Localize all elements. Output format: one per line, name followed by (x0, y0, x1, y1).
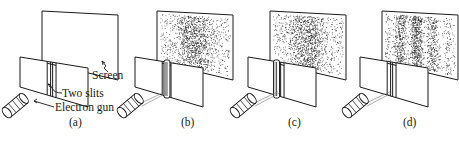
barrier-left-plate (135, 57, 162, 95)
panel-c (228, 11, 346, 119)
electron-gun-icon (115, 92, 145, 120)
electron-gun-icon (0, 92, 30, 120)
screen-label: Screen (92, 70, 123, 82)
electron-gun-icon (340, 92, 370, 120)
two-slit-figure: Screen Two slits Electron gun (a) (b) (c… (0, 0, 459, 143)
barrier-left-plate (248, 57, 275, 95)
panel-label-c: (c) (288, 117, 301, 129)
panel-label-a: (a) (69, 117, 82, 129)
panel-b (115, 11, 233, 119)
barrier-left-plate (20, 57, 47, 95)
panel-label-d: (d) (403, 117, 416, 129)
two-slits-label: Two slits (62, 88, 104, 100)
barrier-right-plate (396, 63, 428, 107)
electron-gun-label: Electron gun (55, 102, 114, 114)
panel-label-b: (b) (181, 117, 194, 129)
panel-d (340, 11, 458, 119)
barrier-left-plate (360, 57, 387, 95)
electron-gun-icon (228, 92, 258, 120)
barrier-right-plate (284, 63, 316, 107)
barrier-right-plate (171, 63, 203, 107)
